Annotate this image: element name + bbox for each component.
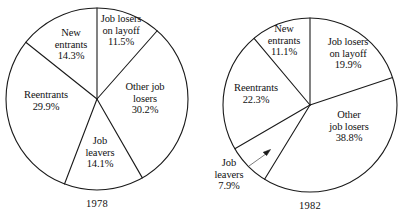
pie-1978-label-job-leavers: Job leavers 14.1% (73, 135, 127, 170)
pie-1978-label-other-job-losers: Other job losers 30.2% (114, 81, 176, 116)
pie-1982-label-other-job-losers: Other job losers 38.8% (316, 109, 382, 144)
pie-1978-year-label: 1978 (67, 198, 127, 210)
pie-chart-figure-page: Job losers on layoff 11.5% Other job los… (0, 0, 406, 223)
pie-1982-label-new-entrants: New entrants 11.1% (256, 23, 312, 58)
pie-1982-label-job-losers-on-layoff: Job losers on layoff 19.9% (315, 36, 381, 71)
pie-chart-1982: Job losers on layoff 19.9% Other job los… (203, 0, 406, 223)
pie-chart-1978: Job losers on layoff 11.5% Other job los… (0, 0, 203, 223)
pie-1978-label-reentrants: Reentrants 29.9% (13, 89, 79, 112)
pie-1978-label-new-entrants: New entrants 14.3% (43, 27, 99, 62)
pie-1982-label-job-leavers: Job leavers 7.9% (205, 157, 253, 192)
pie-1982-year-label: 1982 (280, 200, 340, 212)
pie-1982-label-reentrants: Reentrants 22.3% (222, 82, 290, 105)
